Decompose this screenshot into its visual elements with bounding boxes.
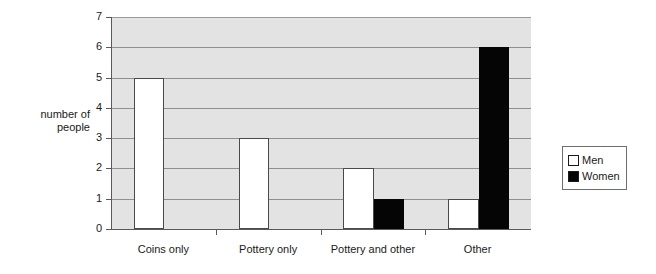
bar-women-pottery-and-other[interactable]: [374, 199, 404, 229]
y-axis-tick-label: 0: [80, 223, 102, 234]
x-axis-category-label: Other: [425, 243, 530, 256]
y-axis-tick-label: 5: [80, 72, 102, 83]
x-axis-tick-mark: [216, 230, 217, 235]
x-axis-category-label: Pottery and other: [321, 243, 426, 256]
y-axis-tick-label: 7: [80, 11, 102, 22]
y-axis-tick-label: 1: [80, 193, 102, 204]
y-axis-tick-label: 6: [80, 41, 102, 52]
x-axis-category-label: Coins only: [111, 243, 216, 256]
y-axis-tick-label: 4: [80, 102, 102, 113]
y-axis-title: number ofpeople: [8, 108, 90, 134]
legend-item-men[interactable]: Men: [568, 152, 620, 168]
x-axis-category-label: Pottery only: [216, 243, 321, 256]
bar-chart: number ofpeople 01234567 Coins onlyPotte…: [0, 0, 656, 274]
white-square-icon: [568, 155, 579, 166]
plot-area: [111, 17, 531, 230]
legend-label-women: Women: [582, 171, 620, 182]
x-axis-tick-mark: [425, 230, 426, 235]
legend: Men Women: [562, 146, 627, 190]
legend-label-men: Men: [582, 155, 603, 166]
bar-men-pottery-and-other[interactable]: [343, 168, 373, 229]
bar-men-other[interactable]: [448, 199, 478, 229]
y-axis-tick-label: 2: [80, 162, 102, 173]
y-axis-tick-label: 3: [80, 132, 102, 143]
legend-item-women[interactable]: Women: [568, 168, 620, 184]
x-axis-tick-mark: [321, 230, 322, 235]
bar-men-coins-only[interactable]: [134, 78, 164, 229]
bar-women-other[interactable]: [479, 47, 509, 229]
bar-men-pottery-only[interactable]: [239, 138, 269, 229]
bar-series-group: [112, 17, 531, 229]
black-square-icon: [568, 171, 579, 182]
